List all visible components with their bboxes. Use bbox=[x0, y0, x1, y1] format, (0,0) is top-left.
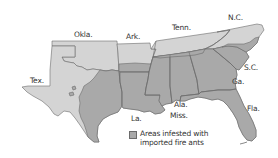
label-texas: Tex. bbox=[30, 77, 44, 85]
label-north-carolina: N.C. bbox=[228, 14, 243, 22]
infested-arkansas bbox=[119, 63, 151, 72]
label-louisiana: La. bbox=[131, 115, 142, 123]
florida-keys bbox=[240, 142, 247, 144]
map-legend: Areas infested with imported fire ants bbox=[129, 129, 208, 147]
infested-texas-patch-1 bbox=[72, 86, 76, 90]
label-oklahoma: Okla. bbox=[74, 31, 92, 39]
infested-texas-patch-2 bbox=[69, 92, 74, 96]
label-florida: Fla. bbox=[247, 105, 260, 113]
legend-line-2: imported fire ants bbox=[140, 138, 208, 147]
label-georgia: Ga. bbox=[232, 78, 244, 86]
label-alabama: Ala. bbox=[174, 101, 187, 109]
label-mississippi: Miss. bbox=[170, 112, 188, 120]
label-tennessee: Tenn. bbox=[172, 24, 191, 32]
legend-swatch-infested bbox=[129, 131, 137, 139]
label-south-carolina: S.C. bbox=[244, 64, 258, 72]
legend-line-1: Areas infested with bbox=[140, 129, 208, 138]
label-arkansas: Ark. bbox=[126, 33, 140, 41]
